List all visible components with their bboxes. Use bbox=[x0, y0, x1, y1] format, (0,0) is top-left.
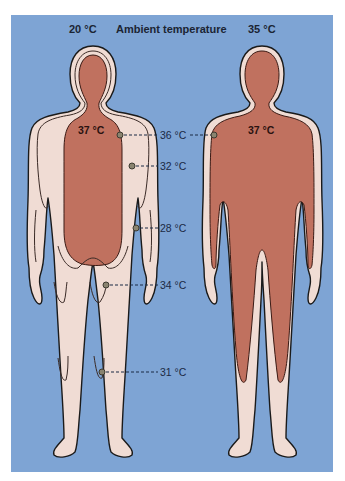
probe-dot-36 bbox=[117, 132, 123, 138]
left-body-figure bbox=[27, 46, 159, 457]
probe-dot-28 bbox=[133, 225, 139, 231]
right-probe-dot bbox=[211, 132, 217, 138]
temp-label-32: 32 °C bbox=[160, 160, 186, 172]
left-ambient-temp-label: 20 °C bbox=[69, 23, 97, 35]
body-temperature-diagram bbox=[0, 0, 345, 481]
right-ambient-temp-label: 35 °C bbox=[248, 23, 276, 35]
probe-dot-34 bbox=[103, 282, 109, 288]
right-core-temp-label: 37 °C bbox=[248, 124, 274, 136]
right-body-figure bbox=[190, 46, 323, 457]
temp-label-34: 34 °C bbox=[160, 279, 186, 291]
left-core-temp-label: 37 °C bbox=[78, 124, 104, 136]
ambient-temperature-title: Ambient temperature bbox=[116, 23, 227, 35]
temp-label-28: 28 °C bbox=[160, 222, 186, 234]
temp-label-36: 36 °C bbox=[160, 129, 186, 141]
probe-dot-32 bbox=[129, 163, 135, 169]
probe-dot-31 bbox=[99, 369, 105, 375]
temp-label-31: 31 °C bbox=[160, 366, 186, 378]
